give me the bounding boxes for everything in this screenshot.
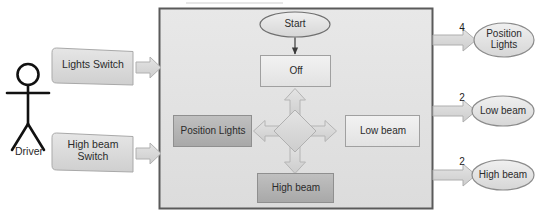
start-node-ellipse[interactable] [260, 12, 330, 37]
output-low-beam-ellipse[interactable] [472, 96, 534, 126]
output-high-beam-ellipse[interactable] [472, 160, 534, 190]
state-off-box[interactable] [261, 56, 331, 87]
high-beam-switch-shape[interactable] [52, 133, 133, 172]
diagram-canvas: Driver Lights Switch High beam Switch St… [0, 0, 545, 224]
diagram-vector-layer [0, 0, 545, 224]
lights-switch-input-arrow [136, 57, 161, 78]
state-position-lights-box[interactable] [174, 116, 252, 147]
output-high-beam-arrow [433, 164, 476, 186]
output-position-lights-ellipse[interactable] [474, 23, 534, 57]
stick-figure-icon [7, 64, 49, 150]
output-position-lights-arrow [433, 29, 476, 51]
state-high-beam-box[interactable] [258, 174, 334, 203]
state-low-beam-box[interactable] [346, 116, 420, 147]
output-low-beam-arrow [433, 100, 476, 122]
high-beam-switch-input-arrow [136, 143, 161, 164]
lights-switch-shape[interactable] [52, 48, 133, 85]
